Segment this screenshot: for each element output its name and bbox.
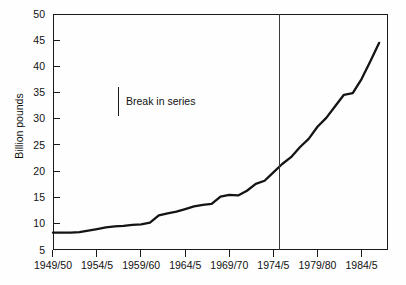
y-axis-tick-label: 15 [19,192,45,203]
annotation-rule [118,87,119,115]
y-axis-tick [53,223,60,224]
x-axis-tick [185,250,186,257]
x-axis-tick-label: 1964/5 [169,260,201,271]
y-axis-tick [53,66,60,67]
y-axis-tick-label: 45 [19,35,45,46]
y-axis-tick-label: 50 [19,9,45,20]
x-axis-tick [229,250,230,257]
y-axis-tick [53,197,60,198]
plot-frame [53,14,388,250]
y-axis-tick [53,40,60,41]
y-axis-tick-label: 20 [19,166,45,177]
x-axis-tick [140,250,141,257]
y-axis-tick-label: 35 [19,87,45,98]
y-axis-tick-label: 10 [19,218,45,229]
x-axis-tick-label: 1979/80 [298,260,336,271]
x-axis-tick [96,250,97,257]
y-axis-tick [53,118,60,119]
x-axis-tick [317,250,318,257]
chart-container: Billion pounds 5101520253035404550 1949/… [0,0,406,285]
y-axis-tick-label: 5 [19,245,45,256]
break-in-series-vertical-line [279,14,280,250]
x-axis-tick-label: 1954/5 [81,260,113,271]
y-axis-tick [53,144,60,145]
x-axis-tick-label: 1969/70 [210,260,248,271]
y-axis-tick [53,171,60,172]
y-axis-tick-label: 25 [19,140,45,151]
x-axis-tick [273,250,274,257]
x-axis-tick-label: 1959/60 [122,260,160,271]
y-axis-tick [53,92,60,93]
y-axis-tick-label: 30 [19,113,45,124]
x-axis-tick-label: 1974/5 [257,260,289,271]
annotation-text: Break in series [126,96,195,107]
x-axis-tick-label: 1949/50 [34,260,72,271]
y-axis-tick-label: 40 [19,61,45,72]
x-axis-tick-label: 1984/5 [345,260,377,271]
x-axis-tick [52,250,53,257]
x-axis-tick [361,250,362,257]
